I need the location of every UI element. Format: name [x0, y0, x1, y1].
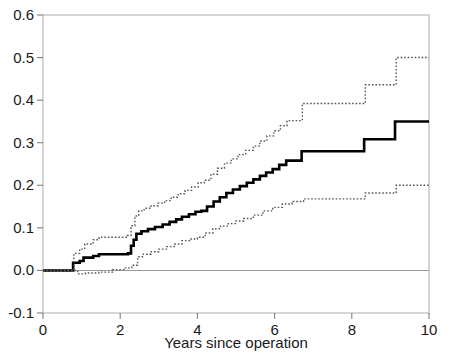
plot-frame: [43, 15, 429, 313]
y-tick-label: -0.1: [8, 304, 34, 321]
y-tick-label: 0.1: [13, 219, 34, 236]
y-tick-label: 0.6: [13, 6, 34, 23]
x-tick-label: 2: [116, 321, 124, 338]
y-axis-ticks: [37, 15, 43, 313]
x-axis-ticks: [43, 313, 429, 319]
y-tick-label: 0.5: [13, 49, 34, 66]
cumulative-incidence-chart: -0.10.00.10.20.30.40.50.6 0246810 Years …: [0, 0, 450, 354]
x-tick-label: 8: [348, 321, 356, 338]
y-tick-label: 0.0: [13, 261, 34, 278]
y-tick-label: 0.3: [13, 134, 34, 151]
y-axis-tick-labels: -0.10.00.10.20.30.40.50.6: [8, 6, 34, 321]
x-tick-label: 10: [421, 321, 438, 338]
plot-area: -0.10.00.10.20.30.40.50.6 0246810 Years …: [0, 0, 450, 354]
y-tick-label: 0.4: [13, 91, 34, 108]
x-axis-title: Years since operation: [164, 334, 308, 351]
x-tick-label: 0: [39, 321, 47, 338]
y-tick-label: 0.2: [13, 176, 34, 193]
plot-border: [43, 15, 429, 313]
